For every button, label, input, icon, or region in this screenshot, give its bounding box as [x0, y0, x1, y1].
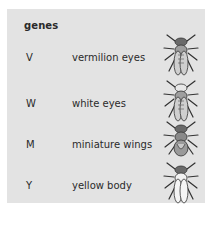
gene-symbol: W: [26, 98, 36, 109]
gene-row-yellow: Y yellow body: [7, 171, 205, 221]
gene-description: vermilion eyes: [72, 52, 145, 63]
fly-vermilion-eyes-icon: [161, 33, 201, 77]
fly-miniature-wings-icon: [161, 120, 201, 164]
gene-symbol: M: [26, 139, 35, 150]
gene-description: white eyes: [72, 98, 126, 109]
gene-description: yellow body: [72, 180, 132, 191]
fly-white-eyes-icon: [161, 79, 201, 123]
gene-symbol: Y: [26, 180, 32, 191]
gene-symbol: V: [26, 52, 33, 63]
panel-title: genes: [24, 20, 58, 31]
genes-panel: genes V vermilion eyes W white eyes: [7, 9, 205, 203]
fly-yellow-body-icon: [161, 161, 201, 205]
gene-description: miniature wings: [72, 139, 152, 150]
